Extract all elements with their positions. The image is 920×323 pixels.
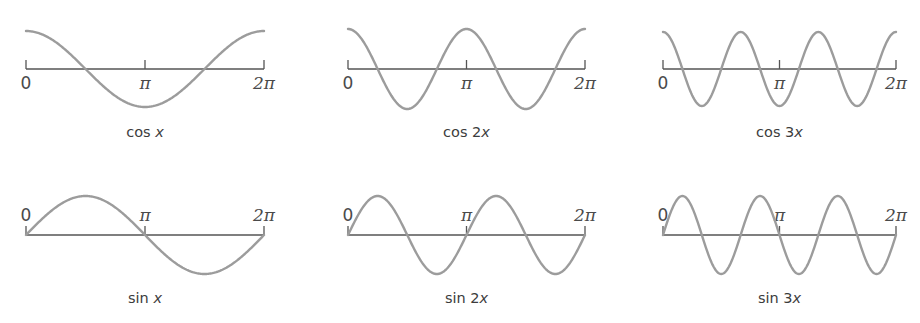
x-tick-label: 0 — [21, 205, 32, 225]
x-tick-label: 2π — [884, 205, 908, 225]
panel-caption: sin x — [128, 290, 162, 306]
caption-coefficient: 3 — [785, 124, 794, 140]
x-tick-label: π — [138, 205, 151, 225]
x-tick-label: π — [138, 73, 151, 93]
panel-caption: cos 3x — [756, 124, 803, 140]
caption-coefficient: 2 — [470, 290, 479, 306]
caption-function: cos — [756, 124, 785, 140]
panel-cos-3x: 0π2πcos 3x — [658, 32, 908, 140]
x-tick-label: 0 — [343, 205, 354, 225]
caption-function: sin — [445, 290, 470, 306]
panel-sin-3x: 0π2πsin 3x — [658, 196, 908, 306]
caption-variable: x — [479, 290, 489, 306]
x-tick-label: 0 — [343, 73, 354, 93]
caption-variable: x — [152, 290, 162, 306]
panel-caption: sin 2x — [445, 290, 489, 306]
x-tick-label: 2π — [573, 73, 597, 93]
x-tick-label: π — [460, 73, 473, 93]
x-tick-label: 2π — [252, 73, 276, 93]
caption-variable: x — [480, 124, 490, 140]
panel-cos-x: 0π2πcos x — [21, 31, 276, 140]
panel-sin-x: 0π2πsin x — [21, 196, 276, 306]
caption-variable: x — [792, 290, 802, 306]
caption-coefficient: 3 — [783, 290, 792, 306]
x-tick-label: 0 — [658, 73, 669, 93]
x-tick-label: 0 — [21, 73, 32, 93]
caption-function: cos — [126, 124, 155, 140]
panel-caption: sin 3x — [758, 290, 802, 306]
x-tick-label: π — [460, 205, 473, 225]
x-tick-label: 2π — [573, 205, 597, 225]
caption-variable: x — [793, 124, 803, 140]
panel-caption: cos 2x — [443, 124, 490, 140]
x-tick-label: π — [773, 73, 786, 93]
caption-function: sin — [758, 290, 783, 306]
trig-functions-figure: 0π2πcos x0π2πcos 2x0π2πcos 3x0π2πsin x0π… — [0, 0, 920, 323]
caption-function: sin — [128, 290, 153, 306]
x-tick-label: 2π — [252, 205, 276, 225]
panel-cos-2x: 0π2πcos 2x — [343, 29, 597, 140]
caption-coefficient: 2 — [472, 124, 481, 140]
caption-variable: x — [154, 124, 164, 140]
caption-function: cos — [443, 124, 472, 140]
panel-caption: cos x — [126, 124, 164, 140]
panel-sin-2x: 0π2πsin 2x — [343, 196, 597, 306]
x-tick-label: 2π — [884, 73, 908, 93]
